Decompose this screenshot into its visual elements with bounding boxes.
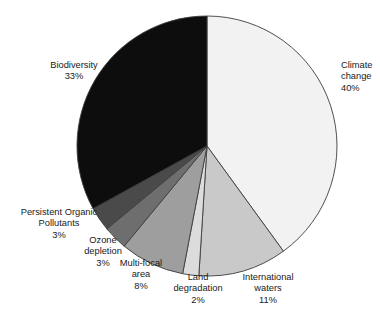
slice-label-ozone-line1: Ozone: [89, 235, 116, 245]
slice-label-pop-line1: Persistent Organic: [21, 207, 97, 217]
slice-label-pop-line2: Pollutants: [0, 218, 118, 229]
slice-label-biodiversity: Biodiversity 33%: [22, 60, 126, 83]
slice-label-biodiversity-percent: 33%: [22, 71, 126, 82]
slice-label-intlwaters-line1: International: [242, 272, 293, 282]
pie-chart-figure: Biodiversity 33% Climate change 40% Pers…: [0, 0, 380, 325]
slice-label-land-line2: degradation: [162, 283, 234, 294]
slice-label-intlwaters-percent: 11%: [228, 295, 308, 306]
slice-label-intlwaters-line2: waters: [228, 283, 308, 294]
slice-label-biodiversity-name: Biodiversity: [50, 60, 98, 70]
slice-label-climate-change-line2: change: [341, 71, 380, 82]
slice-label-land-degradation: Land degradation 2%: [162, 272, 234, 306]
slice-label-multifocal-line1: Multi-focal: [120, 258, 162, 268]
slice-label-climate-change-line1: Climate: [341, 60, 373, 70]
slice-label-ozone-line2: depletion: [70, 246, 136, 257]
slice-label-land-line1: Land: [188, 272, 209, 282]
slice-label-climate-change-percent: 40%: [341, 83, 380, 94]
slice-label-land-percent: 2%: [162, 295, 234, 306]
slice-label-climate-change: Climate change 40%: [341, 60, 380, 94]
slice-label-international-waters: International waters 11%: [228, 272, 308, 306]
